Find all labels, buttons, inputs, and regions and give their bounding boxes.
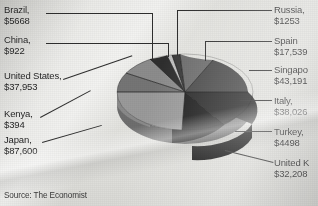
leader-line-turkey bbox=[235, 131, 272, 132]
label-italy: Italy, $38,026 bbox=[274, 95, 307, 117]
label-japan: Japan, $87,600 bbox=[4, 134, 37, 156]
label-japan-name: Japan, bbox=[4, 134, 32, 145]
leader-line-spain bbox=[205, 41, 272, 42]
label-spain-value: $17,539 bbox=[274, 46, 307, 57]
label-china: China, $922 bbox=[4, 34, 31, 56]
label-italy-name: Italy, bbox=[274, 95, 292, 106]
label-kenya: Kenya, $394 bbox=[4, 108, 33, 130]
label-united-states-name: United States, bbox=[4, 70, 62, 81]
label-turkey-name: Turkey, bbox=[274, 126, 304, 137]
leader-line-china bbox=[46, 43, 168, 44]
leader-line-brazil-drop bbox=[152, 13, 153, 60]
label-united-kingdom: United K $32,208 bbox=[274, 157, 309, 179]
pie-chart-svg bbox=[0, 0, 318, 206]
label-china-name: China, bbox=[4, 34, 31, 45]
label-italy-value: $38,026 bbox=[274, 106, 307, 117]
label-russia-value: $1253 bbox=[274, 15, 305, 26]
leader-line-italy bbox=[240, 100, 272, 101]
label-spain-name: Spain bbox=[274, 35, 298, 46]
label-brazil-name: Brazil, bbox=[4, 4, 29, 15]
label-russia-name: Russia, bbox=[274, 4, 305, 15]
label-brazil: Brazil, $5668 bbox=[4, 4, 30, 26]
leader-line-spain-riser bbox=[205, 41, 206, 61]
source-note: Source: The Economist bbox=[4, 191, 87, 200]
leader-line-singapore bbox=[249, 70, 272, 71]
leader-line-russia-riser bbox=[177, 10, 178, 56]
label-singapore-name: Singapo bbox=[274, 64, 308, 75]
label-china-value: $922 bbox=[4, 45, 31, 56]
label-singapore-value: $43,191 bbox=[274, 75, 308, 86]
label-singapore: Singapo $43,191 bbox=[274, 64, 308, 86]
label-turkey-value: $4498 bbox=[274, 137, 304, 148]
label-kenya-value: $394 bbox=[4, 119, 33, 130]
label-united-states-value: $37,953 bbox=[4, 81, 62, 92]
label-spain: Spain $17,539 bbox=[274, 35, 307, 57]
leader-line-brazil bbox=[46, 13, 152, 14]
label-united-states: United States, $37,953 bbox=[4, 70, 62, 92]
label-brazil-value: $5668 bbox=[4, 15, 30, 26]
pie-chart bbox=[0, 0, 318, 206]
label-japan-value: $87,600 bbox=[4, 145, 37, 156]
label-united-kingdom-value: $32,208 bbox=[274, 168, 309, 179]
label-united-kingdom-name: United K bbox=[274, 157, 309, 168]
label-turkey: Turkey, $4498 bbox=[274, 126, 304, 148]
scanned-page: Brazil, $5668 China, $922 United States,… bbox=[0, 0, 318, 206]
leader-line-china-drop bbox=[168, 43, 169, 57]
leader-line-russia-tick bbox=[256, 10, 272, 11]
label-kenya-name: Kenya, bbox=[4, 108, 33, 119]
label-russia: Russia, $1253 bbox=[274, 4, 305, 26]
